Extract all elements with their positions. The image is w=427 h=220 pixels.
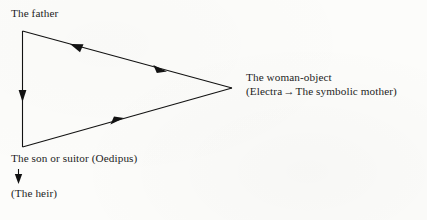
- arrowhead-right-father-to-woman: [153, 65, 167, 73]
- arrowhead-down-son-to-heir: [15, 174, 22, 184]
- right-arrow-icon: →: [282, 84, 295, 98]
- woman-line2-suffix: The symbolic mother): [296, 85, 397, 97]
- woman-line2-prefix: (Electra: [246, 85, 282, 97]
- node-label-heir: (The heir): [11, 186, 57, 200]
- edge-son-to-woman: [23, 88, 233, 147]
- node-label-woman: The woman-object (Electra→The symbolic m…: [246, 70, 397, 98]
- diagram-canvas: The father The son or suitor (Oedipus) (…: [0, 0, 427, 220]
- node-label-woman-line2: (Electra→The symbolic mother): [246, 84, 397, 98]
- arrowhead-left-woman-to-father: [70, 44, 84, 52]
- node-label-woman-line1: The woman-object: [246, 71, 332, 83]
- edge-father-woman: [23, 31, 233, 88]
- node-label-father: The father: [11, 6, 58, 20]
- node-label-son: The son or suitor (Oedipus): [11, 151, 137, 165]
- triangle-diagram: [0, 0, 427, 220]
- arrowhead-right-son-to-woman: [110, 117, 124, 125]
- arrowhead-down-father-to-son: [19, 90, 27, 102]
